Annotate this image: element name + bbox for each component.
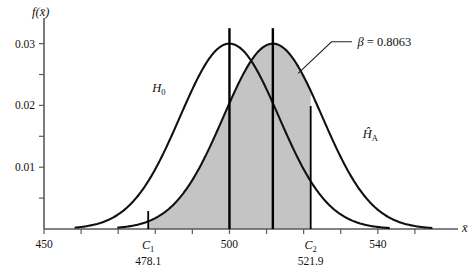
critical-value-number: 521.9 [298, 255, 324, 267]
x-axis-label: x̄ [461, 221, 468, 235]
x-tick-label: 540 [369, 238, 387, 250]
critical-value-number: 478.1 [135, 255, 161, 267]
x-tick-label: 450 [35, 238, 53, 250]
critical-value-name: C1 [142, 238, 154, 254]
y-tick-label: 0.03 [15, 38, 35, 50]
x-axis-tick-labels: 450500540 [35, 238, 386, 250]
alternative-hypothesis-label: ĤA [362, 127, 379, 143]
y-tick-label: 0.01 [15, 161, 35, 173]
y-tick-label: 0.02 [15, 99, 35, 111]
critical-value-name: C2 [305, 238, 317, 254]
x-tick-label: 500 [221, 238, 239, 250]
null-hypothesis-label: H0 [151, 81, 165, 97]
beta-annotation-label: β = 0.8063 [356, 35, 411, 49]
y-axis-label: f(x̄) [32, 5, 49, 19]
beta-power-chart: f(x̄) x̄ 450500540 0.010.020.03 H0 ĤA β … [0, 0, 473, 272]
beta-leader-line [298, 42, 352, 74]
chart-canvas: f(x̄) x̄ 450500540 0.010.020.03 H0 ĤA β … [0, 0, 473, 272]
y-axis-tick-labels: 0.010.020.03 [15, 38, 35, 174]
